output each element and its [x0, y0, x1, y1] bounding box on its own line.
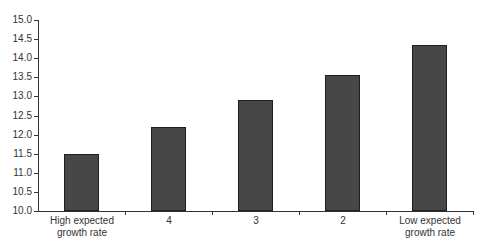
x-tick-label: 3	[211, 215, 301, 227]
y-tick	[34, 77, 39, 78]
bar-chart: 10.010.511.011.512.012.513.013.514.014.5…	[0, 0, 486, 248]
y-tick	[34, 135, 39, 136]
bar	[64, 154, 99, 211]
y-tick	[34, 20, 39, 21]
bar	[325, 75, 360, 211]
y-tick-label: 11.5	[0, 149, 32, 159]
x-tick-label: High expectedgrowth rate	[37, 215, 127, 239]
x-tick-label-line: growth rate	[385, 227, 475, 239]
x-tick-label-line: growth rate	[37, 227, 127, 239]
y-tick-label: 10.0	[0, 206, 32, 216]
y-tick-label: 12.0	[0, 130, 32, 140]
x-tick-label-line: 4	[124, 215, 214, 227]
y-tick-label: 13.5	[0, 72, 32, 82]
y-tick	[34, 154, 39, 155]
x-tick-label: Low expectedgrowth rate	[385, 215, 475, 239]
x-tick-label-line: 2	[298, 215, 388, 227]
x-tick-label: 2	[298, 215, 388, 227]
y-tick-label: 15.0	[0, 15, 32, 25]
x-tick-label: 4	[124, 215, 214, 227]
y-tick	[34, 58, 39, 59]
y-tick	[34, 116, 39, 117]
y-tick	[34, 192, 39, 193]
x-tick-label-line: High expected	[37, 215, 127, 227]
y-tick-label: 10.5	[0, 187, 32, 197]
y-tick-label: 11.0	[0, 168, 32, 178]
bar	[412, 45, 447, 211]
x-tick-label-line: 3	[211, 215, 301, 227]
y-tick	[34, 96, 39, 97]
x-tick-label-line: Low expected	[385, 215, 475, 227]
bar	[238, 100, 273, 211]
y-tick-label: 12.5	[0, 111, 32, 121]
y-tick	[34, 173, 39, 174]
y-tick-label: 14.5	[0, 34, 32, 44]
y-tick-label: 14.0	[0, 53, 32, 63]
y-tick	[34, 39, 39, 40]
y-tick	[34, 211, 39, 212]
x-axis	[38, 211, 473, 212]
y-tick-label: 13.0	[0, 91, 32, 101]
bar	[151, 127, 186, 211]
